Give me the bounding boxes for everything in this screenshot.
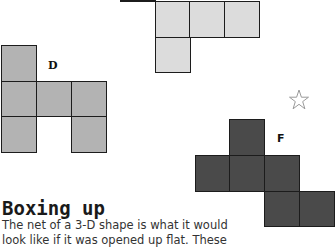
article-body-line: The net of a 3-D shape is what it would <box>2 218 228 232</box>
net-top-square <box>155 1 190 38</box>
net-d-square <box>36 81 72 117</box>
article-heading: Boxing up <box>2 197 105 219</box>
net-d-label: D <box>48 59 58 72</box>
net-d-square <box>1 45 37 82</box>
net-f-square <box>264 155 300 192</box>
net-d-square <box>1 116 37 153</box>
net-top-edge-line <box>120 0 121 2</box>
net-f-square <box>229 119 265 156</box>
net-top-square <box>155 37 191 73</box>
net-f-label: F <box>277 132 285 145</box>
article-body-line: look like if it was opened up flat. Thes… <box>2 233 227 247</box>
net-f-square <box>195 155 230 192</box>
net-f-square <box>229 155 265 192</box>
net-d-square <box>71 81 107 117</box>
article-body: The net of a 3-D shape is what it would … <box>2 218 327 248</box>
net-d-square <box>1 81 37 117</box>
net-top-square <box>224 1 260 38</box>
net-top-square <box>189 1 225 38</box>
net-top-edge-line <box>120 0 156 2</box>
net-d-square <box>71 116 107 153</box>
star-icon <box>289 89 309 111</box>
